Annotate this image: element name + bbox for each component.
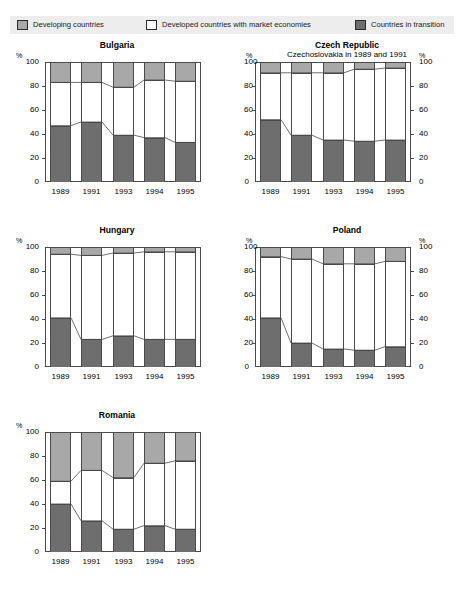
ytick-romania-left-60: 60 — [14, 476, 39, 484]
ytick-mark — [252, 110, 255, 111]
plot-area-bulgaria — [45, 62, 201, 182]
ytick-poland-right-60: 60 — [419, 291, 443, 299]
connector-market-top — [50, 252, 196, 256]
ytick-poland-right-40: 40 — [419, 315, 443, 323]
ytick-mark — [42, 110, 45, 111]
legend-label-developing: Developing countries — [33, 21, 104, 29]
ytick-bulgaria-left-20: 20 — [14, 154, 39, 162]
ytick-poland-left-40: 40 — [244, 315, 249, 323]
chart-page: Developing countries Developed countries… — [0, 0, 464, 614]
xtick-poland-1995: 1995 — [379, 372, 412, 381]
developing-swatch-icon — [17, 20, 28, 30]
ytick-mark — [252, 271, 255, 272]
xtick-romania-1989: 1989 — [44, 557, 77, 566]
ytick-czech-republic-left-60: 60 — [244, 106, 249, 114]
xtick-romania-1995: 1995 — [169, 557, 202, 566]
ytick-mark — [42, 528, 45, 529]
panel-title-czech-republic: Czech Republic — [244, 40, 450, 50]
panel-bulgaria: Bulgaria100806040200%1989199119931994199… — [14, 40, 220, 215]
ytick-mark — [411, 319, 414, 320]
ytick-czech-republic-right-40: 40 — [419, 130, 443, 138]
ytick-hungary-left-60: 60 — [14, 291, 39, 299]
ytick-mark — [411, 110, 414, 111]
xtick-czech-republic-1994: 1994 — [348, 187, 381, 196]
ytick-bulgaria-left-0: 0 — [14, 178, 39, 186]
panel-poland: Poland100806040200%100806040200%19891991… — [244, 225, 450, 400]
ytick-romania-left-40: 40 — [14, 500, 39, 508]
xtick-hungary-1991: 1991 — [75, 372, 108, 381]
ytick-mark — [411, 134, 414, 135]
ytick-czech-republic-left-80: 80 — [244, 82, 249, 90]
connector-market-top — [50, 461, 196, 481]
ytick-hungary-left-20: 20 — [14, 339, 39, 347]
xtick-romania-1991: 1991 — [75, 557, 108, 566]
ytick-czech-republic-right-60: 60 — [419, 106, 443, 114]
ytick-czech-republic-left-20: 20 — [244, 154, 249, 162]
panel-title-poland: Poland — [244, 225, 450, 235]
axis-unit-poland-right: % — [419, 237, 425, 245]
xtick-bulgaria-1995: 1995 — [169, 187, 202, 196]
panel-title-romania: Romania — [14, 410, 220, 420]
ytick-poland-right-0: 0 — [419, 363, 443, 371]
ytick-mark — [42, 480, 45, 481]
axis-unit-czech-republic-right: % — [419, 52, 425, 60]
ytick-mark — [411, 86, 414, 87]
xtick-hungary-1989: 1989 — [44, 372, 77, 381]
ytick-mark — [42, 271, 45, 272]
ytick-romania-left-0: 0 — [14, 548, 39, 556]
ytick-mark — [42, 86, 45, 87]
ytick-mark — [252, 86, 255, 87]
ytick-bulgaria-left-40: 40 — [14, 130, 39, 138]
connector-lines-romania — [45, 432, 201, 552]
xtick-czech-republic-1989: 1989 — [254, 187, 287, 196]
ytick-mark — [42, 504, 45, 505]
connector-transition — [50, 318, 196, 340]
ytick-czech-republic-left-0: 0 — [244, 178, 249, 186]
panel-title-bulgaria: Bulgaria — [14, 40, 220, 50]
axis-unit-poland-left: % — [246, 237, 252, 245]
connector-transition — [50, 504, 196, 529]
ytick-poland-right-20: 20 — [419, 339, 443, 347]
ytick-czech-republic-right-20: 20 — [419, 154, 443, 162]
ytick-hungary-left-80: 80 — [14, 267, 39, 275]
xtick-poland-1993: 1993 — [317, 372, 350, 381]
axis-unit-hungary-left: % — [16, 237, 22, 245]
plot-area-romania — [45, 432, 201, 552]
xtick-bulgaria-1989: 1989 — [44, 187, 77, 196]
ytick-poland-left-0: 0 — [244, 363, 249, 371]
ytick-mark — [252, 295, 255, 296]
legend-label-transition: Countries in transition — [371, 21, 444, 29]
legend-item-developing: Developing countries — [17, 20, 104, 30]
market-swatch-icon — [146, 20, 157, 30]
ytick-mark — [42, 158, 45, 159]
xtick-bulgaria-1994: 1994 — [138, 187, 171, 196]
ytick-hungary-left-40: 40 — [14, 315, 39, 323]
xtick-bulgaria-1991: 1991 — [75, 187, 108, 196]
legend-item-transition: Countries in transition — [355, 20, 444, 30]
ytick-mark — [42, 456, 45, 457]
ytick-mark — [252, 319, 255, 320]
connector-lines-poland — [255, 247, 411, 367]
ytick-romania-left-20: 20 — [14, 524, 39, 532]
xtick-hungary-1995: 1995 — [169, 372, 202, 381]
ytick-czech-republic-right-80: 80 — [419, 82, 443, 90]
connector-market-top — [260, 68, 406, 73]
ytick-poland-right-80: 80 — [419, 267, 443, 275]
xtick-bulgaria-1993: 1993 — [107, 187, 140, 196]
ytick-mark — [411, 271, 414, 272]
connector-lines-hungary — [45, 247, 201, 367]
xtick-hungary-1994: 1994 — [138, 372, 171, 381]
xtick-romania-1993: 1993 — [107, 557, 140, 566]
panel-title-hungary: Hungary — [14, 225, 220, 235]
connector-market-top — [50, 80, 196, 87]
axis-unit-czech-republic-left: % — [246, 52, 252, 60]
connector-lines-bulgaria — [45, 62, 201, 182]
panel-czech-republic: Czech RepublicCzechoslovakia in 1989 and… — [244, 40, 450, 215]
legend-item-market: Developed countries with market economie… — [146, 20, 311, 30]
axis-unit-bulgaria-left: % — [16, 52, 22, 60]
ytick-poland-left-60: 60 — [244, 291, 249, 299]
ytick-mark — [252, 158, 255, 159]
axis-unit-romania-left: % — [16, 422, 22, 430]
xtick-poland-1991: 1991 — [285, 372, 318, 381]
connector-transition — [50, 122, 196, 142]
